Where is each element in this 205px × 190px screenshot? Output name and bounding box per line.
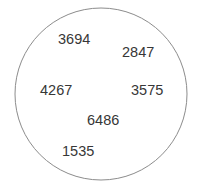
set-element-value: 2847 [122, 45, 154, 59]
set-element-value: 6486 [87, 113, 119, 127]
set-element-value: 3694 [58, 32, 90, 46]
set-element-value: 3575 [131, 83, 163, 97]
venn-diagram-figure [0, 0, 205, 190]
set-element-value: 1535 [62, 144, 94, 158]
set-element-value: 4267 [40, 83, 72, 97]
venn-diagram-canvas: 3694 2847 4267 3575 6486 1535 [0, 0, 205, 190]
